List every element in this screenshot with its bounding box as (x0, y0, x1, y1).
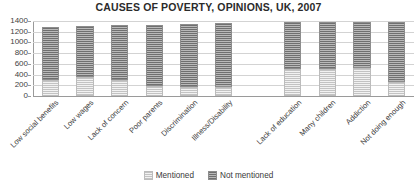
y-tick-mark (28, 75, 31, 76)
legend-item[interactable]: Not mentioned (208, 171, 273, 180)
bar-segment-mentioned[interactable] (42, 80, 59, 96)
bar-column[interactable] (146, 25, 163, 96)
chart-legend: MentionedNot mentioned (0, 171, 417, 180)
y-tick-label: 1200 (10, 28, 28, 36)
bar-segment-not-mentioned[interactable] (111, 25, 128, 80)
bar-segment-not-mentioned[interactable] (388, 22, 405, 83)
chart-title: CAUSES OF POVERTY, OPINIONS, UK, 2007 (0, 1, 417, 13)
bar-segment-mentioned[interactable] (111, 80, 128, 96)
bar-segment-mentioned[interactable] (76, 77, 93, 96)
plot-area (33, 21, 414, 96)
legend-swatch-mentioned (144, 171, 153, 180)
x-tick-label: Poor parents (127, 98, 164, 135)
y-tick-mark (28, 96, 31, 97)
bar-column[interactable] (319, 22, 336, 96)
x-tick-label: Addiction (344, 98, 372, 126)
legend-label: Not mentioned (220, 171, 273, 180)
poverty-causes-chart: CAUSES OF POVERTY, OPINIONS, UK, 2007 14… (0, 0, 417, 192)
bar-segment-not-mentioned[interactable] (353, 22, 370, 68)
bar-segment-not-mentioned[interactable] (146, 25, 163, 87)
y-tick-label: 600 (15, 60, 28, 68)
y-tick-mark (28, 53, 31, 54)
bar-column[interactable] (284, 22, 301, 96)
x-tick-label: Low wages (62, 98, 95, 131)
bar-segment-mentioned[interactable] (215, 87, 232, 96)
x-tick-label: Many children (298, 98, 338, 138)
bar-segment-not-mentioned[interactable] (180, 24, 197, 88)
bar-segment-not-mentioned[interactable] (42, 27, 59, 80)
bar-column[interactable] (388, 22, 405, 96)
x-tick-label: Lack of education (255, 98, 303, 146)
bar-segment-mentioned[interactable] (319, 69, 336, 96)
bar-column[interactable] (215, 23, 232, 96)
bar-segment-not-mentioned[interactable] (215, 23, 232, 87)
bar-segment-mentioned[interactable] (353, 68, 370, 96)
y-tick-label: 400 (15, 71, 28, 79)
bar-segment-mentioned[interactable] (388, 82, 405, 96)
legend-label: Mentioned (156, 171, 194, 180)
x-tick-label: Low social benefits (9, 98, 61, 150)
y-tick-label: 200 (15, 81, 28, 89)
y-tick-label: 800 (15, 49, 28, 57)
y-tick-label: 1400 (10, 17, 28, 25)
legend-swatch-not-mentioned (208, 171, 217, 180)
bar-column[interactable] (353, 22, 370, 96)
y-tick-mark (28, 64, 31, 65)
y-tick-mark (28, 21, 31, 22)
bar-segment-mentioned[interactable] (180, 87, 197, 96)
bar-column[interactable] (42, 27, 59, 96)
bar-segment-mentioned[interactable] (284, 69, 301, 96)
bar-column[interactable] (76, 26, 93, 96)
x-axis: Low social benefitsLow wagesLack of conc… (33, 96, 414, 162)
legend-item[interactable]: Mentioned (144, 171, 194, 180)
bar-segment-not-mentioned[interactable] (319, 22, 336, 69)
bar-column[interactable] (180, 24, 197, 96)
bar-segment-not-mentioned[interactable] (284, 22, 301, 69)
y-tick-mark (28, 85, 31, 86)
bar-segment-not-mentioned[interactable] (76, 26, 93, 77)
y-axis: 1400120010008006004002000 (0, 21, 31, 96)
bar-column[interactable] (111, 25, 128, 96)
bar-segment-mentioned[interactable] (146, 86, 163, 96)
y-tick-mark (28, 32, 31, 33)
y-tick-label: 1000 (10, 38, 28, 46)
y-tick-mark (28, 42, 31, 43)
